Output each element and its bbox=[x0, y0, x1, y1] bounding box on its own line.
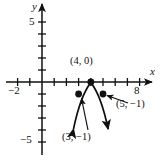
parabola-curve bbox=[74, 83, 109, 129]
x-tick-label-8: 8 bbox=[134, 85, 140, 96]
y-axis-label: y bbox=[32, 1, 37, 12]
graph-figure: y x 5 −5 −2 8 (4, 0) (5, −1) (3, −1) bbox=[0, 0, 163, 161]
point-vertex-4-0 bbox=[87, 79, 94, 86]
right-point-label: (5, −1) bbox=[116, 99, 145, 110]
x-axis-label: x bbox=[150, 66, 155, 77]
y-tick-label-5: 5 bbox=[29, 16, 35, 27]
x-tick-label-neg-2: −2 bbox=[8, 85, 20, 96]
y-axis bbox=[38, 4, 46, 155]
x-axis bbox=[6, 78, 152, 86]
point-5-neg1 bbox=[100, 91, 107, 98]
point-3-neg1 bbox=[75, 91, 82, 98]
left-point-label: (3, −1) bbox=[62, 132, 91, 143]
leader-arrow-left-point bbox=[82, 99, 89, 131]
y-tick-label-neg-5: −5 bbox=[20, 134, 32, 145]
vertex-point-label: (4, 0) bbox=[70, 56, 93, 67]
